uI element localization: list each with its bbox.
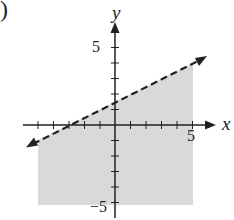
x-axis-arrow-icon [205, 121, 216, 130]
part-label: ) [0, 0, 8, 23]
boundary-arrow-left-icon [26, 138, 38, 148]
boundary-arrow-right-icon [195, 56, 207, 66]
inequality-graph [0, 0, 234, 220]
y-tick-label-5: 5 [92, 38, 100, 56]
x-axis-label: x [222, 113, 230, 135]
y-tick-label-neg5: −5 [90, 198, 107, 216]
y-axis-label: y [112, 2, 120, 24]
x-tick-label-5: 5 [187, 127, 195, 145]
